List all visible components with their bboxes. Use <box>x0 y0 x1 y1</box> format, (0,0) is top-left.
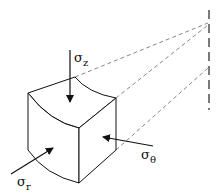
sigma-z-label: σz <box>74 51 88 68</box>
sigma-theta-label: σθ <box>141 148 156 165</box>
stress-element-diagram <box>0 0 223 194</box>
sigma-r-label: σr <box>17 175 31 192</box>
stress-element <box>28 77 116 183</box>
